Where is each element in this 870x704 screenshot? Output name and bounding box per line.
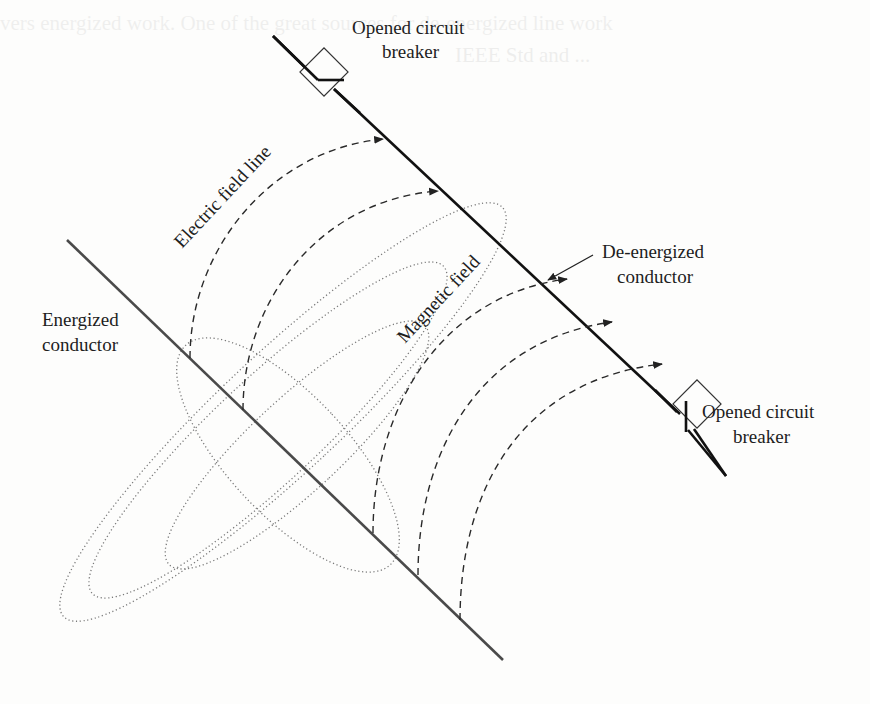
magnetic-field-lines	[23, 164, 544, 661]
circuit-breaker-top-icon	[273, 36, 360, 113]
label-deenergized-2: conductor	[617, 266, 694, 287]
magnetic-loop-inner	[142, 304, 434, 605]
magnetic-loop-2	[23, 164, 544, 661]
electric-field-arc-4	[418, 322, 612, 575]
electric-field-arc-2	[243, 191, 438, 410]
electric-field-arc-5	[460, 364, 662, 620]
label-energized-2: conductor	[42, 334, 119, 355]
label-breaker-bottom-1: Opened circuit	[702, 401, 815, 422]
electric-field-lines	[190, 139, 662, 620]
label-breaker-top-2: breaker	[382, 41, 440, 62]
label-magnetic-field: Magnetic field	[393, 251, 485, 347]
electric-field-arc-3	[373, 279, 567, 533]
electric-field-arc-1	[190, 139, 383, 358]
induced-voltage-diagram: Opened circuit breaker Opened circuit br…	[0, 0, 870, 704]
label-energized-1: Energized	[42, 309, 119, 330]
magnetic-loop-1	[57, 228, 479, 631]
label-deenergized-1: De-energized	[602, 241, 704, 262]
deenergized-pointer-arrow	[548, 255, 593, 280]
label-breaker-bottom-2: breaker	[733, 426, 791, 447]
label-breaker-top-1: Opened circuit	[352, 17, 465, 38]
circuit-breaker-bottom-icon	[655, 380, 726, 476]
